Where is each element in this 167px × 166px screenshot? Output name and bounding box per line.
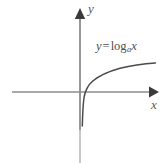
x-axis-arrowhead xyxy=(149,87,159,98)
y-axis-arrowhead xyxy=(75,8,85,19)
equation-lhs: y xyxy=(96,39,102,53)
equation-operator: = xyxy=(102,39,111,53)
x-axis-label: x xyxy=(151,98,157,111)
y-axis-label: y xyxy=(88,2,94,15)
equation-function-name: log xyxy=(111,39,127,53)
equation-argument: x xyxy=(131,39,137,53)
logarithm-curve xyxy=(82,63,155,126)
curve-equation-label: y=logax xyxy=(96,40,137,54)
coordinate-plot xyxy=(0,0,167,166)
logarithm-function-figure: y x y=logax xyxy=(0,0,167,166)
